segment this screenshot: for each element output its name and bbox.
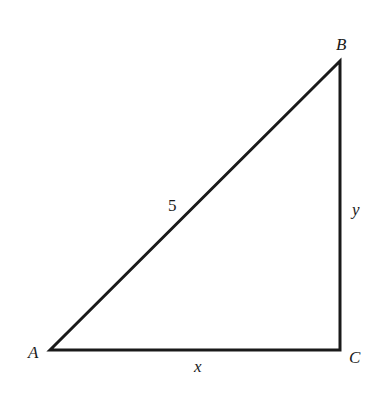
side-label-hypotenuse: 5 [168, 196, 177, 215]
side-label-horizontal: x [193, 357, 202, 376]
vertex-label-b: B [336, 35, 347, 54]
side-label-vertical: y [350, 200, 360, 219]
vertex-label-a: A [27, 343, 39, 362]
vertex-label-c: C [349, 348, 361, 367]
triangle-diagram: A B C 5 y x [0, 0, 376, 396]
triangle-abc [50, 61, 340, 350]
